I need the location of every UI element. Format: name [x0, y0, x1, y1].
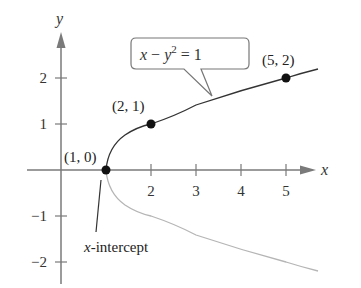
y-tick-label-neg2: −2	[31, 254, 47, 270]
point-1-0	[102, 166, 111, 175]
x-tick-label-2: 2	[147, 183, 155, 199]
equation-label: x − y2 = 1	[139, 43, 202, 64]
x-axis	[27, 166, 316, 175]
equation-callout: x − y2 = 1	[131, 38, 249, 96]
y-tick-label-1: 1	[40, 116, 48, 132]
x-intercept-pointer	[96, 180, 101, 232]
parabola-graph: x y 2 3 4 5 2 1 −1 −2 x − y2 = 1 (1, 0) …	[0, 0, 361, 288]
x-tick-label-5: 5	[282, 183, 290, 199]
y-axis-label: y	[54, 10, 64, 28]
x-axis-label: x	[320, 161, 328, 178]
y-tick-label-neg1: −1	[31, 208, 47, 224]
x-tick-label-3: 3	[192, 183, 200, 199]
y-axis-arrow-icon	[57, 32, 66, 48]
point-label-5-2: (5, 2)	[262, 52, 295, 69]
y-tick-label-2: 2	[40, 70, 48, 86]
point-5-2	[282, 74, 291, 83]
point-label-2-1: (2, 1)	[112, 98, 145, 115]
x-intercept-label: x-intercept	[83, 239, 149, 255]
point-2-1	[147, 120, 156, 129]
x-axis-arrow-icon	[300, 166, 316, 175]
upper-branch-curve	[106, 69, 318, 170]
x-tick-label-4: 4	[237, 183, 245, 199]
point-label-1-0: (1, 0)	[64, 149, 97, 166]
